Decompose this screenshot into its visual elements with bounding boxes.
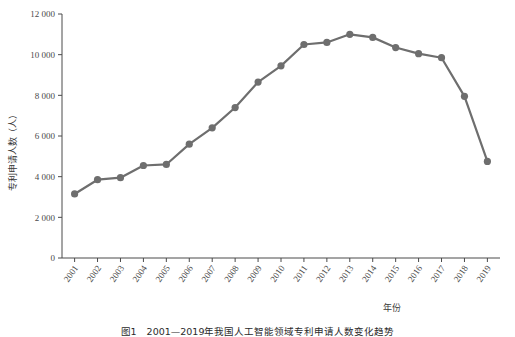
data-point (415, 50, 422, 57)
data-point (461, 93, 468, 100)
x-tick-label: 2007 (199, 263, 218, 284)
data-point (94, 176, 101, 183)
x-axis-title: 年份 (383, 302, 401, 313)
y-tick-label: 2 000 (35, 213, 56, 223)
data-point (346, 31, 353, 38)
data-point (232, 104, 239, 111)
data-point (254, 79, 261, 86)
x-tick-label: 2005 (153, 263, 172, 284)
x-tick-label: 2013 (337, 263, 356, 284)
y-tick-label: 12 000 (30, 9, 55, 19)
y-axis-title: 专利申请人数（人） (7, 110, 18, 191)
x-tick-label: 2009 (245, 263, 264, 284)
x-tick-label: 2014 (360, 263, 379, 284)
data-point (369, 34, 376, 41)
data-point (117, 174, 124, 181)
y-tick-label: 0 (51, 253, 56, 263)
data-point (186, 141, 193, 148)
x-tick-label: 2015 (383, 263, 402, 284)
data-point (438, 54, 445, 61)
x-axis-ticks: 2001200220032004200520062007200820092010… (62, 258, 494, 284)
x-tick-label: 2001 (62, 263, 81, 283)
x-tick-label: 2010 (268, 263, 287, 284)
data-point (71, 190, 78, 197)
data-point (323, 39, 330, 46)
x-tick-label: 2006 (176, 263, 195, 284)
data-line (75, 34, 488, 194)
y-tick-label: 4 000 (35, 172, 56, 182)
x-tick-label: 2012 (314, 263, 333, 283)
y-tick-label: 6 000 (35, 131, 56, 141)
x-tick-label: 2016 (406, 263, 425, 284)
data-point (163, 161, 170, 168)
data-point (140, 162, 147, 169)
x-tick-label: 2003 (108, 263, 127, 284)
x-tick-label: 2011 (291, 263, 309, 283)
data-point (277, 62, 284, 69)
x-tick-label: 2018 (452, 263, 471, 284)
figure-caption: 图1 2001—2019年我国人工智能领域专利申请人数变化趋势 (0, 325, 515, 337)
y-axis-ticks: 02 0004 0006 0008 00010 00012 000 (30, 9, 62, 263)
data-point (209, 124, 216, 131)
x-tick-label: 2017 (429, 263, 448, 284)
y-tick-label: 8 000 (35, 91, 56, 101)
data-point (300, 41, 307, 48)
x-tick-label: 2004 (131, 263, 150, 284)
x-tick-label: 2008 (222, 263, 241, 284)
data-point (392, 44, 399, 51)
x-tick-label: 2019 (475, 263, 494, 284)
y-tick-label: 10 000 (30, 50, 55, 60)
data-point (484, 158, 491, 165)
x-tick-label: 2002 (85, 263, 104, 283)
